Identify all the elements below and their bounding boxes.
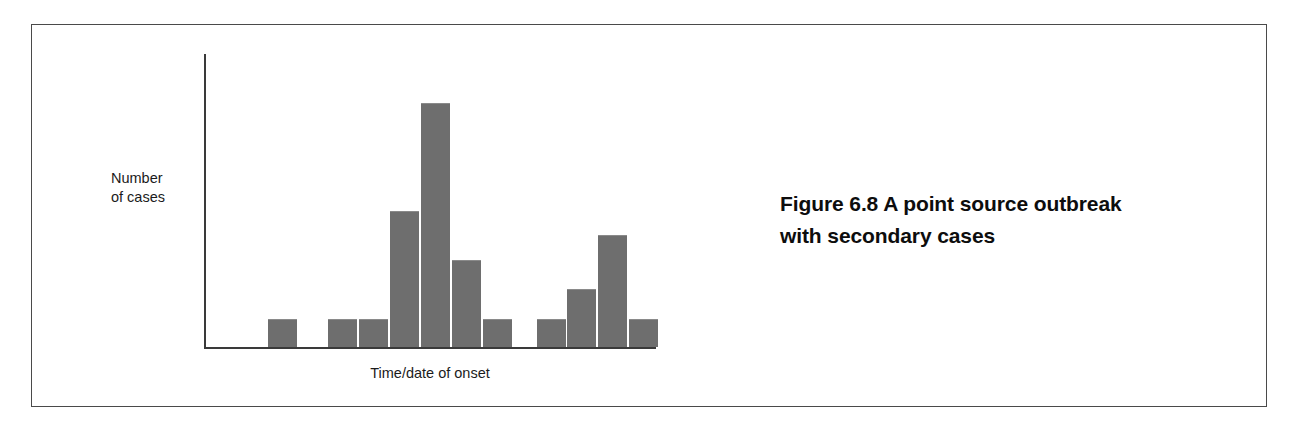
bar bbox=[629, 319, 658, 347]
y-axis-label: Number of cases bbox=[111, 169, 201, 207]
y-axis-label-line1: Number bbox=[111, 169, 201, 188]
figure-caption-line2: with secondary cases bbox=[780, 224, 995, 247]
y-axis-label-line2: of cases bbox=[111, 188, 201, 207]
figure-caption: Figure 6.8 A point source outbreak with … bbox=[780, 188, 1230, 252]
bar bbox=[567, 289, 596, 347]
chart-area: Number of cases Time/date of onset bbox=[32, 25, 692, 408]
bar bbox=[268, 319, 297, 347]
bar bbox=[452, 260, 481, 347]
plot-region bbox=[204, 54, 656, 349]
bar bbox=[359, 319, 388, 347]
bar bbox=[421, 103, 450, 347]
x-axis-label: Time/date of onset bbox=[204, 365, 656, 381]
y-axis-line bbox=[204, 54, 206, 349]
figure-panel: Number of cases Time/date of onset Figur… bbox=[31, 24, 1267, 407]
bar bbox=[328, 319, 357, 347]
bar bbox=[390, 211, 419, 347]
bar bbox=[483, 319, 512, 347]
bar bbox=[537, 319, 566, 347]
figure-caption-line1: Figure 6.8 A point source outbreak bbox=[780, 192, 1122, 215]
x-axis-line bbox=[204, 347, 656, 349]
bar bbox=[598, 235, 627, 347]
